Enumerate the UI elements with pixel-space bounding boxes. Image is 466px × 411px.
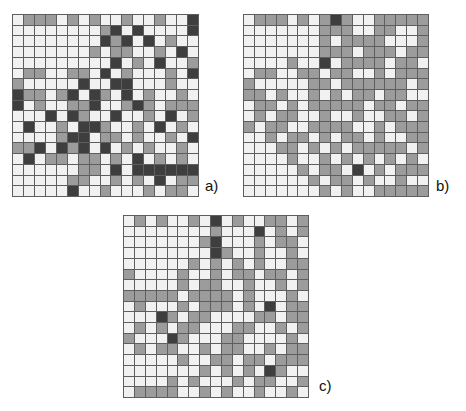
grid-cell-dark xyxy=(133,101,143,111)
grid-cell-gray xyxy=(375,165,385,175)
grid-cell-gray xyxy=(124,291,134,301)
grid-cell-white xyxy=(101,154,111,164)
grid-cell-dark xyxy=(79,122,89,132)
grid-cell-gray xyxy=(320,122,330,132)
grid-cell-dark xyxy=(68,111,78,121)
grid-cell-dark xyxy=(155,122,165,132)
grid-cell-white xyxy=(200,270,210,280)
grid-cell-gray xyxy=(309,90,319,100)
grid-cell-white xyxy=(144,69,154,79)
grid-cell-gray xyxy=(178,280,188,290)
grid-cell-gray xyxy=(211,291,221,301)
grid-cell-white xyxy=(189,248,199,258)
grid-cell-white xyxy=(211,387,221,397)
grid-cell-white xyxy=(24,58,34,68)
grid-cell-gray xyxy=(407,154,417,164)
grid-cell-white xyxy=(396,154,406,164)
grid-cell-white xyxy=(57,26,67,36)
grid-cell-white xyxy=(135,259,145,269)
grid-cell-gray xyxy=(101,186,111,196)
grid-cell-white xyxy=(133,15,143,25)
grid-cell-gray xyxy=(287,237,297,247)
grid-cell-white xyxy=(122,58,132,68)
grid-cell-white xyxy=(342,165,352,175)
grid-cell-gray xyxy=(68,69,78,79)
grid-cell-white xyxy=(57,176,67,186)
grid-cell-white xyxy=(68,47,78,57)
grid-cell-white xyxy=(298,334,308,344)
grid-cell-gray xyxy=(122,101,132,111)
grid-cell-gray xyxy=(331,26,341,36)
grid-cell-white xyxy=(298,111,308,121)
grid-cell-white xyxy=(364,111,374,121)
grid-cell-dark xyxy=(111,79,121,89)
grid-cell-gray xyxy=(133,122,143,132)
grid-cell-gray xyxy=(122,47,132,57)
grid-cell-white xyxy=(255,176,265,186)
grid-cell-white xyxy=(146,355,156,365)
grid-cell-gray xyxy=(288,111,298,121)
grid-cell-white xyxy=(46,90,56,100)
grid-cell-dark xyxy=(35,143,45,153)
grid-cell-white xyxy=(233,248,243,258)
grid-cell-gray xyxy=(418,79,428,89)
lattice-grid-a xyxy=(12,14,199,197)
grid-cell-white xyxy=(24,186,34,196)
grid-cell-white xyxy=(233,280,243,290)
grid-cell-gray xyxy=(166,36,176,46)
grid-cell-dark xyxy=(111,58,121,68)
grid-cell-dark xyxy=(188,133,198,143)
grid-cell-dark xyxy=(79,143,89,153)
grid-cell-white xyxy=(298,122,308,132)
grid-cell-gray xyxy=(418,47,428,57)
grid-cell-white xyxy=(396,26,406,36)
grid-cell-white xyxy=(407,90,417,100)
grid-cell-gray xyxy=(407,133,417,143)
grid-cell-white xyxy=(133,36,143,46)
grid-cell-gray xyxy=(90,15,100,25)
grid-cell-gray xyxy=(124,270,134,280)
grid-cell-gray xyxy=(177,90,187,100)
grid-cell-white xyxy=(364,69,374,79)
grid-cell-white xyxy=(178,227,188,237)
grid-cell-white xyxy=(255,366,265,376)
grid-cell-white xyxy=(189,366,199,376)
grid-cell-gray xyxy=(178,302,188,312)
grid-cell-gray xyxy=(276,323,286,333)
grid-cell-white xyxy=(320,143,330,153)
grid-cell-white xyxy=(101,15,111,25)
grid-cell-gray xyxy=(200,366,210,376)
grid-cell-white xyxy=(166,15,176,25)
grid-cell-gray xyxy=(309,69,319,79)
grid-cell-white xyxy=(276,344,286,354)
grid-cell-white xyxy=(124,344,134,354)
grid-cell-white xyxy=(364,26,374,36)
grid-cell-white xyxy=(255,344,265,354)
grid-cell-white xyxy=(46,69,56,79)
grid-cell-gray xyxy=(177,186,187,196)
grid-cell-gray xyxy=(222,344,232,354)
grid-cell-gray xyxy=(375,26,385,36)
grid-cell-white xyxy=(276,259,286,269)
grid-cell-white xyxy=(79,26,89,36)
grid-cell-gray xyxy=(57,90,67,100)
grid-cell-white xyxy=(244,186,254,196)
grid-cell-white xyxy=(35,111,45,121)
grid-cell-white xyxy=(124,387,134,397)
grid-cell-white xyxy=(13,186,23,196)
grid-cell-white xyxy=(57,47,67,57)
grid-cell-white xyxy=(144,133,154,143)
grid-cell-gray xyxy=(298,302,308,312)
grid-cell-gray xyxy=(168,344,178,354)
grid-cell-white xyxy=(233,387,243,397)
grid-cell-white xyxy=(276,377,286,387)
grid-cell-gray xyxy=(46,154,56,164)
grid-cell-white xyxy=(364,133,374,143)
grid-cell-gray xyxy=(266,69,276,79)
grid-cell-white xyxy=(79,58,89,68)
grid-cell-gray xyxy=(277,90,287,100)
grid-cell-white xyxy=(255,270,265,280)
grid-cell-gray xyxy=(255,387,265,397)
grid-cell-gray xyxy=(342,176,352,186)
grid-cell-white xyxy=(188,79,198,89)
